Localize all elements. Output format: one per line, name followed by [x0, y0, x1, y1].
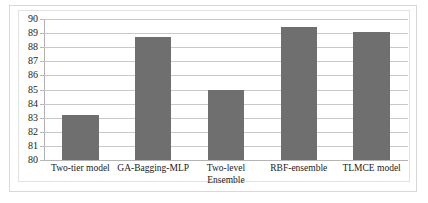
x-axis-category-labels: Two-tier modelGA-Bagging-MLPTwo-level En…: [44, 163, 408, 199]
y-tick-label: 88: [14, 42, 38, 52]
y-tick-label: 87: [14, 56, 38, 66]
y-axis-tick-labels: 9089888786858483828180: [14, 0, 38, 203]
x-tick-label: TLMCE model: [335, 163, 408, 175]
y-tick-label: 80: [14, 155, 38, 165]
bar: [62, 115, 98, 160]
y-tick-mark: [40, 160, 44, 161]
y-tick-label: 86: [14, 70, 38, 80]
y-tick-label: 90: [14, 14, 38, 24]
y-tick-label: 82: [14, 127, 38, 137]
x-tick-label: Two-tier model: [44, 163, 117, 175]
bar: [353, 32, 389, 160]
bar-chart-figure: 9089888786858483828180 Two-tier modelGA-…: [0, 0, 428, 203]
y-tick-label: 89: [14, 28, 38, 38]
y-tick-label: 81: [14, 141, 38, 151]
gridline: [44, 160, 408, 161]
x-tick-label: Two-level Ensemble: [190, 163, 263, 186]
bar: [135, 37, 171, 160]
x-tick-label: GA-Bagging-MLP: [117, 163, 190, 175]
y-tick-label: 84: [14, 99, 38, 109]
y-tick-label: 83: [14, 113, 38, 123]
bar: [281, 27, 317, 160]
y-tick-label: 85: [14, 85, 38, 95]
x-tick-label: RBF-ensemble: [262, 163, 335, 175]
bar: [208, 90, 244, 161]
plot-area: [44, 19, 408, 160]
